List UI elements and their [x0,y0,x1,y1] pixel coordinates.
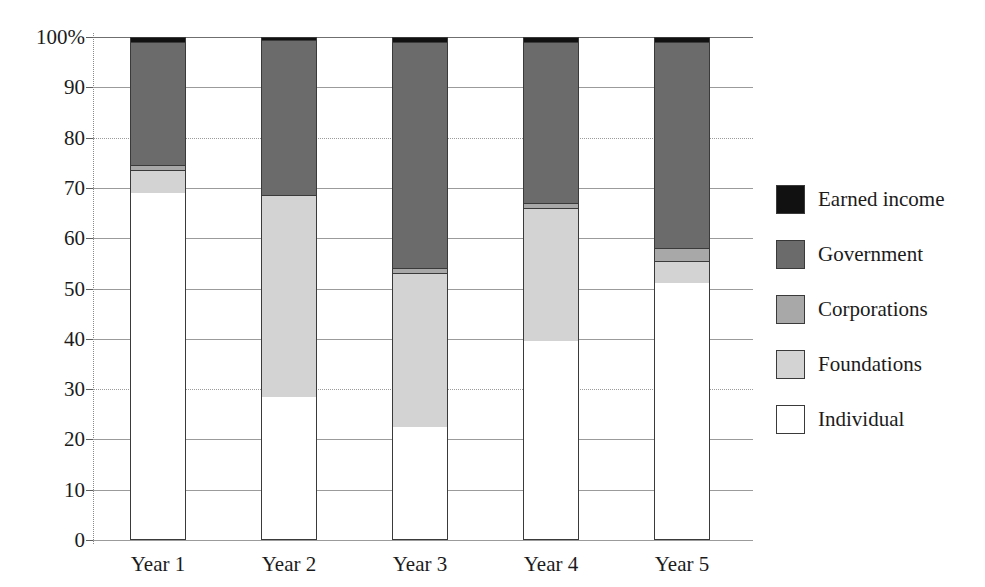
segment-foundations[interactable] [654,261,710,284]
segment-government[interactable] [523,42,579,203]
segment-government[interactable] [261,40,317,196]
legend-swatch-foundations [776,350,805,379]
legend-item-foundations[interactable]: Foundations [776,337,976,392]
segment-earned-income[interactable] [130,37,186,42]
y-tick-label-20: 20 [64,429,85,450]
y-tick-mark-10 [86,490,93,491]
y-tick-label-80: 80 [64,127,85,148]
segment-corporations[interactable] [523,203,579,208]
bar-year-2[interactable] [261,37,317,540]
y-tick-label-30: 30 [64,379,85,400]
plot-area: 0102030405060708090100% Year 1Year 2Year… [93,37,753,540]
chart-page: 0102030405060708090100% Year 1Year 2Year… [0,0,985,587]
y-tick-mark-60 [86,238,93,239]
legend-label-government: Government [818,242,923,267]
bar-year-5[interactable] [654,37,710,540]
segment-corporations[interactable] [130,165,186,170]
segment-individual[interactable] [261,397,317,540]
x-axis-label-year-2: Year 2 [262,552,316,577]
segment-foundations[interactable] [130,170,186,193]
chart-legend: Earned incomeGovernmentCorporationsFound… [776,172,976,447]
segment-individual[interactable] [392,427,448,540]
y-tick-mark-100 [86,37,93,38]
legend-swatch-corporations [776,295,805,324]
y-tick-mark-90 [86,87,93,88]
x-axis-label-year-3: Year 3 [393,552,447,577]
y-tick-label-100: 100% [36,27,85,48]
y-tick-label-50: 50 [64,278,85,299]
y-tick-label-60: 60 [64,228,85,249]
segment-earned-income[interactable] [654,37,710,42]
legend-label-foundations: Foundations [818,352,922,377]
y-tick-mark-0 [86,540,93,541]
legend-label-corporations: Corporations [818,297,928,322]
legend-item-corporations[interactable]: Corporations [776,282,976,337]
y-tick-mark-40 [86,339,93,340]
legend-item-earned-income[interactable]: Earned income [776,172,976,227]
legend-swatch-earned-income [776,185,805,214]
y-tick-label-10: 10 [64,479,85,500]
segment-foundations[interactable] [523,208,579,341]
segment-earned-income[interactable] [392,37,448,42]
segment-earned-income[interactable] [261,37,317,40]
y-tick-mark-20 [86,439,93,440]
segment-government[interactable] [654,42,710,248]
legend-item-government[interactable]: Government [776,227,976,282]
legend-swatch-individual [776,405,805,434]
segment-individual[interactable] [130,193,186,540]
y-tick-label-90: 90 [64,77,85,98]
segment-government[interactable] [392,42,448,268]
legend-item-individual[interactable]: Individual [776,392,976,447]
legend-swatch-government [776,240,805,269]
legend-label-individual: Individual [818,407,904,432]
x-axis-label-year-5: Year 5 [655,552,709,577]
x-axis-label-year-1: Year 1 [131,552,185,577]
gridline-0 [93,540,753,541]
bar-year-4[interactable] [523,37,579,540]
segment-individual[interactable] [523,341,579,540]
segment-corporations[interactable] [392,268,448,273]
segment-foundations[interactable] [392,273,448,426]
segment-government[interactable] [130,42,186,165]
y-tick-mark-30 [86,389,93,390]
segment-foundations[interactable] [261,195,317,396]
y-tick-label-0: 0 [75,530,86,551]
y-tick-mark-80 [86,138,93,139]
segment-individual[interactable] [654,283,710,540]
segment-earned-income[interactable] [523,37,579,42]
y-tick-label-70: 70 [64,177,85,198]
bar-year-1[interactable] [130,37,186,540]
segment-corporations[interactable] [654,248,710,261]
y-tick-mark-70 [86,188,93,189]
x-axis-label-year-4: Year 4 [524,552,578,577]
y-tick-mark-50 [86,289,93,290]
y-tick-label-40: 40 [64,328,85,349]
legend-label-earned-income: Earned income [818,187,945,212]
bar-year-3[interactable] [392,37,448,540]
